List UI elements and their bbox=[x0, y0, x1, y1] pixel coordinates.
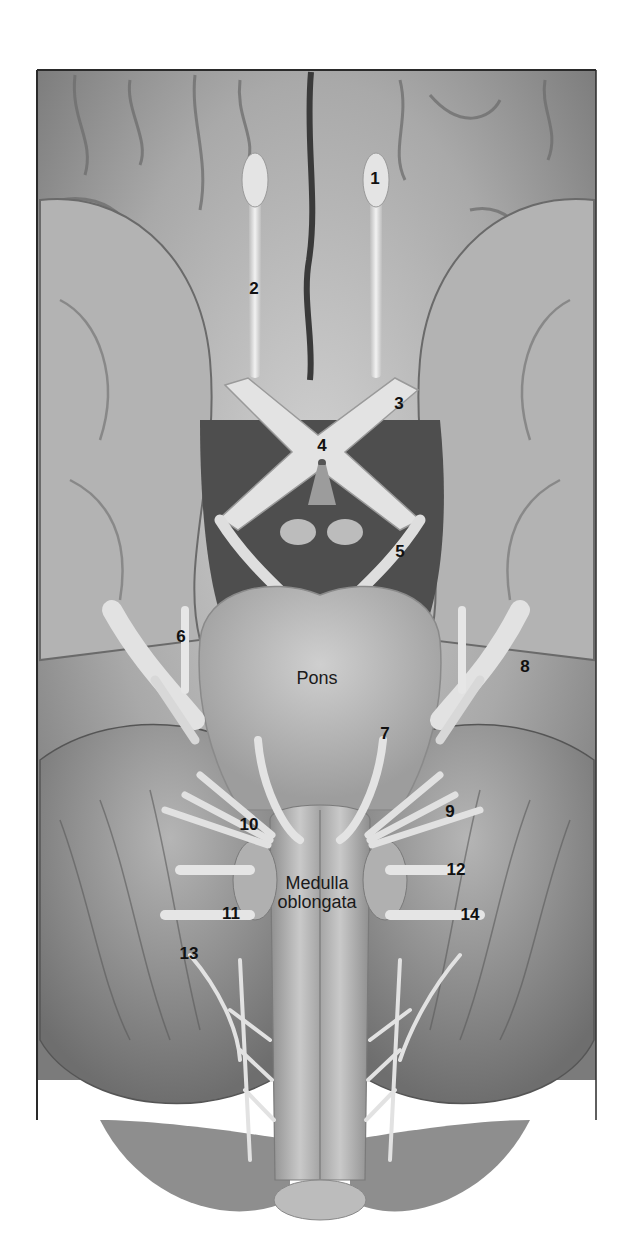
label-3: 3 bbox=[394, 395, 403, 412]
label-10: 10 bbox=[240, 816, 259, 833]
medulla-label-text: Medulla oblongata bbox=[277, 873, 356, 912]
brain-illustration bbox=[0, 0, 627, 1259]
label-13: 13 bbox=[180, 945, 199, 962]
medulla-oblongata-label: Medulla oblongata bbox=[277, 874, 356, 912]
label-9: 9 bbox=[445, 803, 454, 820]
brain-cranial-nerves-figure: Pons Medulla oblongata 1 2 3 4 5 6 7 8 9… bbox=[0, 0, 627, 1259]
label-4: 4 bbox=[317, 437, 326, 454]
label-12: 12 bbox=[447, 861, 466, 878]
label-1: 1 bbox=[370, 170, 379, 187]
label-8: 8 bbox=[520, 658, 529, 675]
label-6: 6 bbox=[176, 628, 185, 645]
label-14: 14 bbox=[461, 906, 480, 923]
label-11: 11 bbox=[222, 905, 240, 922]
olfactory-tract-right bbox=[370, 198, 382, 378]
label-5: 5 bbox=[395, 543, 404, 560]
pons bbox=[199, 586, 441, 810]
pons-label: Pons bbox=[296, 669, 337, 688]
label-7: 7 bbox=[380, 725, 389, 742]
label-2: 2 bbox=[249, 280, 258, 297]
spinal-cord-section bbox=[274, 1180, 366, 1220]
